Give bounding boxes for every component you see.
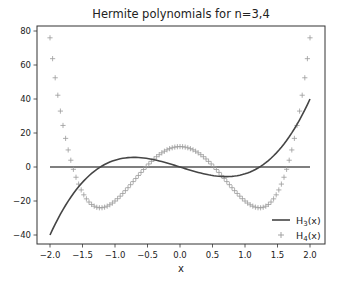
x-tick-label: 2.0 [303, 250, 317, 260]
hermite-chart: Hermite polynomials for n=3,4 −2.0−1.5−1… [0, 0, 343, 282]
x-tick-label: 1.5 [271, 250, 285, 260]
y-tick-label: 60 [20, 60, 31, 70]
legend-label-h3: H3(x) [296, 215, 321, 228]
x-axis-label: x [178, 263, 184, 274]
y-tick-label: −40 [13, 230, 31, 240]
x-tick-label: −0.5 [137, 250, 158, 260]
x-tick-label: −1.5 [72, 250, 93, 260]
x-tick-label: 0.0 [173, 250, 187, 260]
x-tick-label: 0.5 [206, 250, 220, 260]
legend-label-h4: H4(x) [296, 230, 321, 243]
plot-area [47, 35, 312, 235]
h4-markers [47, 35, 312, 210]
plot-frame [37, 26, 325, 244]
legend: H3(x) H4(x) [272, 215, 321, 243]
legend-plus-swatch [278, 232, 284, 238]
x-tick-label: 1.0 [238, 250, 252, 260]
chart-title: Hermite polynomials for n=3,4 [92, 7, 270, 21]
y-tick-label: −20 [13, 196, 31, 206]
x-tick-label: −1.0 [105, 250, 126, 260]
y-axis: −40−20020406080 [13, 26, 37, 240]
y-tick-label: 40 [20, 94, 31, 104]
y-tick-label: 80 [20, 26, 31, 36]
chart-canvas: Hermite polynomials for n=3,4 −2.0−1.5−1… [0, 0, 343, 282]
x-tick-label: −2.0 [40, 250, 61, 260]
y-tick-label: 0 [26, 162, 31, 172]
y-tick-label: 20 [20, 128, 31, 138]
x-axis: −2.0−1.5−1.0−0.50.00.51.01.52.0 [40, 244, 317, 260]
